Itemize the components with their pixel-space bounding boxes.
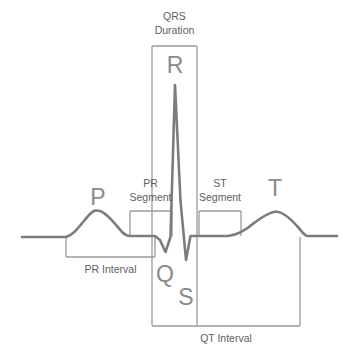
ecg-waveform-diagram: P R Q S T QRS Duration PR Segment ST Seg…	[0, 0, 361, 356]
wave-letter-p: P	[90, 184, 105, 210]
qrs-duration-label-line2: Duration	[155, 24, 195, 36]
wave-letter-q: Q	[156, 261, 174, 287]
wave-letter-r: R	[167, 52, 184, 78]
pr-segment-label-line2: Segment	[129, 191, 171, 203]
ecg-diagram-canvas: P R Q S T QRS Duration PR Segment ST Seg…	[0, 0, 361, 356]
st-segment-bracket	[199, 211, 241, 236]
qt-interval-bracket	[152, 237, 300, 326]
pr-interval-bracket	[66, 237, 155, 257]
pr-segment-label-line1: PR	[143, 177, 158, 189]
ecg-trace	[22, 85, 337, 260]
qrs-duration-label-line1: QRS	[163, 10, 186, 22]
pr-interval-label: PR Interval	[85, 263, 137, 275]
wave-letter-t: T	[268, 175, 282, 201]
pr-segment-bracket	[130, 211, 172, 236]
st-segment-label-line1: ST	[213, 177, 227, 189]
st-segment-label-line2: Segment	[199, 191, 241, 203]
wave-letter-s: S	[178, 284, 193, 310]
qt-interval-label: QT Interval	[200, 332, 252, 344]
